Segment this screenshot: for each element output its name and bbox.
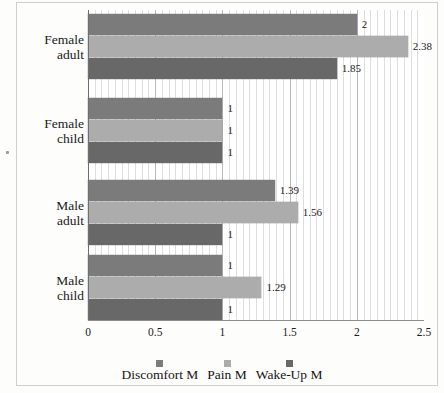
bar-row: 1 [88, 98, 233, 119]
x-axis-tick: 1.5 [282, 326, 296, 338]
bar-row: 1 [88, 120, 233, 141]
bar-value-label: 2.38 [413, 41, 432, 52]
bar-row: 1.85 [88, 58, 361, 79]
bar-group: 111 [88, 98, 424, 163]
category-label-line: Male [6, 198, 84, 213]
bar-value-label: 1 [227, 260, 233, 271]
legend-swatch [286, 360, 293, 367]
x-axis-tick-labels: 00.511.522.5 [88, 326, 424, 344]
legend-swatch [224, 360, 231, 367]
bar-row: 2 [88, 14, 367, 35]
x-axis-tick: 2.5 [417, 326, 431, 338]
bar-row: 2.38 [88, 36, 432, 57]
bar[interactable] [88, 299, 222, 320]
bar-row: 1.29 [88, 277, 286, 298]
category-label-line: adult [6, 47, 84, 62]
x-axis-tick: 0.5 [148, 326, 162, 338]
category-label-line: child [6, 288, 84, 303]
legend-item[interactable]: Discomfort M [121, 360, 198, 382]
bar[interactable] [88, 14, 357, 35]
legend-label: Wake-Up M [256, 368, 323, 382]
bar-value-label: 1 [227, 147, 233, 158]
bar-value-label: 1.56 [303, 207, 322, 218]
value-axis-line [88, 10, 89, 321]
bar-value-label: 1.39 [280, 185, 299, 196]
bar[interactable] [88, 98, 222, 119]
legend-item[interactable]: Pain M [207, 360, 246, 382]
category-label: Femalechild [6, 116, 84, 146]
chart-figure: FemaleadultFemalechildMaleadultMalechild… [0, 0, 444, 393]
category-label-line: Female [6, 32, 84, 47]
bar-row: 1 [88, 255, 233, 276]
figure-border-bottom [16, 385, 438, 386]
bar[interactable] [88, 142, 222, 163]
bar[interactable] [88, 36, 408, 57]
legend-label: Discomfort M [121, 368, 198, 382]
bar-row: 1 [88, 299, 233, 320]
bar-value-label: 2 [362, 19, 368, 30]
bar-row: 1.39 [88, 180, 299, 201]
bar[interactable] [88, 255, 222, 276]
bar-value-label: 1.85 [342, 63, 361, 74]
category-label: Maleadult [6, 198, 84, 228]
bar-value-label: 1 [227, 125, 233, 136]
legend-label: Pain M [207, 368, 246, 382]
category-label-line: adult [6, 213, 84, 228]
figure-border-right [437, 2, 438, 386]
x-axis-tick: 0 [85, 326, 91, 338]
legend-item[interactable]: Wake-Up M [256, 360, 323, 382]
category-label-line: Male [6, 273, 84, 288]
figure-border-top [16, 2, 438, 3]
plot-area: 22.381.851111.391.56111.291 [88, 10, 424, 321]
category-axis: FemaleadultFemalechildMaleadultMalechild [0, 10, 84, 321]
category-label-line: Female [6, 116, 84, 131]
bar-value-label: 1 [227, 103, 233, 114]
bar[interactable] [88, 58, 337, 79]
category-label-line: child [6, 131, 84, 146]
bar[interactable] [88, 202, 298, 223]
category-axis-line [88, 320, 424, 321]
bar-row: 1.56 [88, 202, 322, 223]
category-label: Femaleadult [6, 32, 84, 62]
x-axis-tick: 2 [354, 326, 360, 338]
legend-swatch [156, 360, 163, 367]
bar[interactable] [88, 224, 222, 245]
bar-value-label: 1 [227, 304, 233, 315]
bar-value-label: 1 [227, 229, 233, 240]
bar-group: 1.391.561 [88, 180, 424, 245]
bar-group: 22.381.85 [88, 14, 424, 79]
bar-group: 11.291 [88, 255, 424, 320]
category-label: Malechild [6, 273, 84, 303]
bar[interactable] [88, 180, 275, 201]
x-axis-tick: 1 [220, 326, 226, 338]
bar[interactable] [88, 277, 261, 298]
bar-row: 1 [88, 142, 233, 163]
chart-legend: Discomfort MPain MWake-Up M [0, 360, 444, 382]
bar-value-label: 1.29 [266, 282, 285, 293]
bar[interactable] [88, 120, 222, 141]
bar-row: 1 [88, 224, 233, 245]
